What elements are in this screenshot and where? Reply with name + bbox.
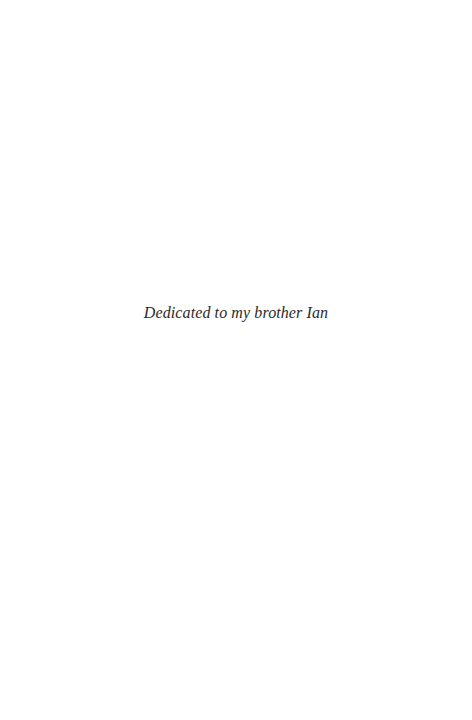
dedication-text: Dedicated to my brother Ian xyxy=(0,303,472,323)
book-page: Dedicated to my brother Ian xyxy=(0,0,472,720)
